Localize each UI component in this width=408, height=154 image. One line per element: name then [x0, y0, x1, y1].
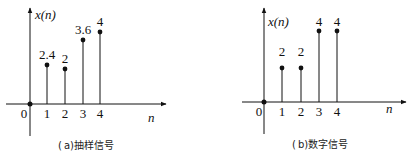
- caption: (a)抽样信号: [58, 139, 114, 151]
- stem-point-3: [81, 38, 86, 43]
- origin-point: [262, 100, 267, 105]
- x-axis-label: n: [148, 110, 155, 125]
- value-label: 2: [62, 51, 69, 66]
- value-label: 4: [97, 14, 104, 29]
- tick-label: 1: [44, 106, 51, 121]
- stem-point-1: [280, 66, 285, 71]
- tick-label: 3: [80, 106, 87, 121]
- tick-label: 2: [298, 104, 305, 119]
- x-axis-label: n: [386, 101, 393, 116]
- stem-point-4: [335, 29, 340, 34]
- value-label: 2.4: [39, 47, 56, 62]
- value-label: 2: [279, 44, 286, 59]
- origin-point: [28, 102, 33, 107]
- tick-label: 4: [334, 104, 341, 119]
- value-label: 4: [316, 14, 323, 29]
- stem-point-2: [299, 66, 304, 71]
- value-label: 4: [334, 14, 341, 29]
- tick-label: 2: [62, 106, 69, 121]
- tick-label: 1: [279, 104, 286, 119]
- stem-point-4: [98, 30, 103, 35]
- tick-label: 0: [256, 104, 263, 119]
- caption: (b)数字信号: [292, 138, 348, 150]
- value-label: 2: [298, 44, 305, 59]
- tick-label: 4: [97, 106, 104, 121]
- tick-label: 3: [316, 104, 323, 119]
- stem-point-2: [63, 67, 68, 72]
- y-axis-label: x(n): [34, 7, 56, 22]
- value-label: 3.6: [75, 22, 92, 37]
- chart-a: x(n) n 2.4 2 3.6 4 0 1 2 3 4 (a)抽样信号: [6, 7, 166, 151]
- stem-point-3: [317, 29, 322, 34]
- tick-label: 0: [21, 106, 28, 121]
- y-axis-label: x(n): [267, 14, 289, 29]
- figure: x(n) n 2.4 2 3.6 4 0 1 2 3 4 (a)抽样信号 x(n…: [0, 0, 408, 154]
- chart-b: x(n) n 2 2 4 4 0 1 2 3 4 (b)数字信号: [242, 8, 406, 150]
- stem-point-1: [45, 63, 50, 68]
